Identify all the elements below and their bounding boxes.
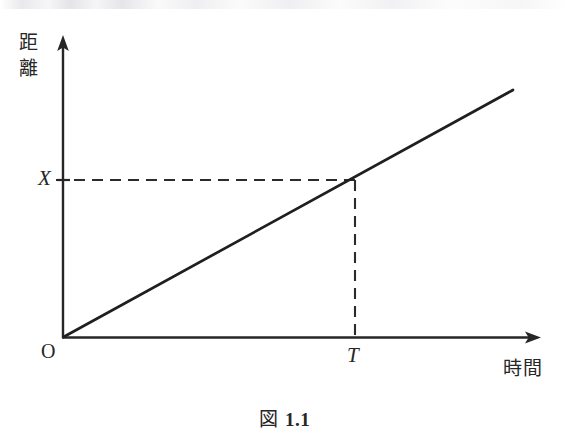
x-axis-tick-label-t: T [347,345,359,366]
distance-time-plot [0,0,569,446]
y-axis-title: 距 離 [17,30,39,82]
figure-caption: 図1.1 [0,404,569,431]
y-axis-title-char-1: 距 [17,30,39,56]
x-axis-title: 時間 [503,359,543,378]
data-line-distance-vs-time [64,90,514,337]
figure-caption-prefix: 図 [259,408,278,430]
origin-label: O [41,341,55,361]
y-axis-tick-label-x: X [38,168,51,189]
y-axis-title-char-2: 離 [17,56,39,82]
figure-container: 距 離 時間 X T O 図1.1 [0,0,569,446]
figure-caption-number: 1.1 [285,409,310,430]
